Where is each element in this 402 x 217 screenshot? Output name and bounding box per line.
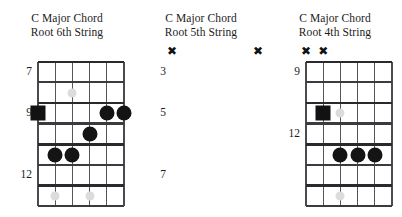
muted-string-x-icon: ✖ bbox=[167, 45, 177, 57]
muted-string-x-icon: ✖ bbox=[318, 45, 328, 57]
fret-line bbox=[38, 61, 124, 64]
chord-title-line-1: C Major Chord bbox=[134, 12, 268, 26]
fret-number-label: 7 bbox=[12, 67, 32, 79]
fret-line bbox=[38, 164, 124, 166]
fret-number-label: 12 bbox=[12, 169, 32, 181]
chord-chart-sheet: C Major Chord Root 6th String C Major Ch… bbox=[0, 0, 402, 217]
fret-number-label: 9 bbox=[280, 67, 300, 79]
chord-title: C Major Chord Root 6th String bbox=[0, 12, 134, 39]
chord-title-line-1: C Major Chord bbox=[0, 12, 134, 26]
chord-title: C Major Chord Root 4th String bbox=[268, 12, 402, 39]
root-note-marker bbox=[31, 106, 46, 121]
fretboard-inlay-marker bbox=[51, 191, 60, 200]
finger-position-dot bbox=[99, 106, 114, 121]
finger-position-dot bbox=[82, 127, 97, 142]
chord-title-line-1: C Major Chord bbox=[268, 12, 402, 26]
fretboard-grid bbox=[38, 62, 124, 206]
fretboard-inlay-marker bbox=[85, 191, 94, 200]
finger-position-dot bbox=[65, 147, 80, 162]
fretboard-inlay-marker bbox=[68, 88, 77, 97]
chord-title-line-2: Root 5th String bbox=[134, 26, 268, 40]
fret-line bbox=[38, 102, 124, 105]
muted-string-x-icon: ✖ bbox=[253, 45, 263, 57]
fret-number-label: 5 bbox=[146, 108, 166, 120]
fret-line bbox=[38, 143, 124, 146]
chord-title-line-2: Root 4th String bbox=[268, 26, 402, 40]
fret-line bbox=[38, 184, 124, 187]
finger-position-dot bbox=[117, 106, 132, 121]
chord-title-line-2: Root 6th String bbox=[0, 26, 134, 40]
fret-number-label: 7 bbox=[146, 169, 166, 181]
finger-position-dot bbox=[48, 147, 63, 162]
fret-number-label: 9 bbox=[12, 108, 32, 120]
chord-title: C Major Chord Root 5th String bbox=[134, 12, 268, 39]
fret-line bbox=[38, 205, 124, 207]
muted-string-x-icon: ✖ bbox=[301, 45, 311, 57]
fret-line bbox=[38, 81, 124, 83]
fret-line bbox=[38, 122, 124, 124]
fret-number-label: 3 bbox=[146, 67, 166, 79]
fret-number-label: 12 bbox=[280, 128, 300, 140]
chord-diagram-root-4th-string: C Major Chord Root 4th String bbox=[268, 0, 402, 217]
